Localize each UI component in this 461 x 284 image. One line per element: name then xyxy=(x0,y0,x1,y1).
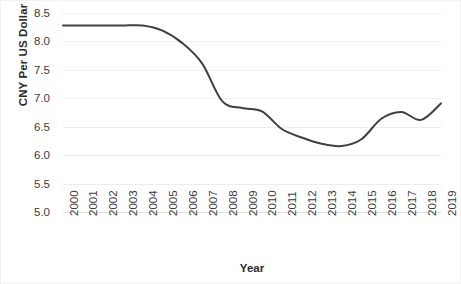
x-tick-label: 2019 xyxy=(446,190,458,216)
x-tick-label: 2014 xyxy=(346,190,358,216)
x-tick-label: 2016 xyxy=(386,190,398,216)
x-tick-label: 2004 xyxy=(147,190,159,216)
x-tick-label: 2008 xyxy=(227,190,239,216)
x-tick-label: 2003 xyxy=(127,190,139,216)
x-tick-label: 2000 xyxy=(68,190,80,216)
x-tick-label: 2002 xyxy=(107,190,119,216)
y-tick-label: 6.0 xyxy=(34,149,50,161)
y-tick-label: 8.5 xyxy=(34,7,50,19)
x-tick-label: 2001 xyxy=(87,190,99,216)
series-path xyxy=(63,25,441,146)
x-tick-label: 2013 xyxy=(326,190,338,216)
x-tick-label: 2017 xyxy=(406,190,418,216)
x-tick-label: 2011 xyxy=(286,191,298,216)
y-tick-label: 8.0 xyxy=(34,35,50,47)
y-tick-label: 7.5 xyxy=(34,64,50,76)
y-axis-tick-labels: 5.05.56.06.57.07.58.08.5 xyxy=(1,1,57,284)
y-tick-label: 6.5 xyxy=(34,121,50,133)
x-tick-label: 2007 xyxy=(207,190,219,216)
x-tick-label: 2012 xyxy=(306,190,318,216)
plot-area xyxy=(63,13,441,212)
x-tick-label: 2005 xyxy=(167,190,179,216)
x-tick-label: 2018 xyxy=(426,190,438,216)
y-tick-label: 7.0 xyxy=(34,92,50,104)
x-tick-label: 2009 xyxy=(247,190,259,216)
x-tick-label: 2006 xyxy=(187,190,199,216)
x-axis-tick-labels: 2000200120022003200420052006200720082009… xyxy=(63,212,441,260)
series-line-cny-per-us-dollar xyxy=(63,13,441,212)
x-tick-label: 2015 xyxy=(366,190,378,216)
line-chart: CNY Per US Dollar 5.05.56.06.57.07.58.08… xyxy=(0,0,461,284)
x-axis-title: Year xyxy=(63,262,441,274)
x-tick-label: 2010 xyxy=(266,190,278,216)
y-tick-label: 5.5 xyxy=(34,178,50,190)
y-tick-label: 5.0 xyxy=(34,206,50,218)
